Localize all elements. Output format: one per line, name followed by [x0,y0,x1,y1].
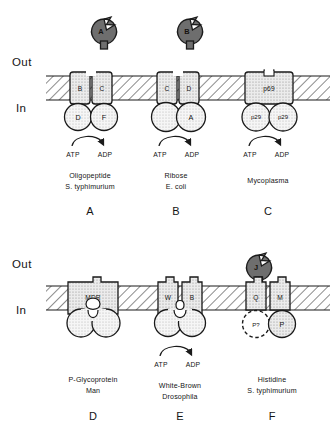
abc-transporter-figure: Out In A B C D F [0,0,336,438]
caption-C-line1: Mycoplasma [247,177,288,185]
panel-label-A: A [86,205,94,217]
label-out-bottom: Out [12,258,32,270]
membrane-subunit-label-B2: D [187,85,192,92]
cytoplasmic-subunit-label-F2: P [280,320,285,329]
cytoplasmic-subunit-label-C1: p29 [251,113,262,120]
binding-protein-label-B: B [184,27,189,36]
caption-B-line1: Ribose [165,172,188,180]
panel-label-F: F [269,410,276,422]
caption-E-line2: Drosophila [162,393,197,401]
membrane-subunit-label-A2: C [100,85,105,92]
panel-label-D: D [89,410,97,422]
binding-protein-label-F: J [254,263,258,272]
atp-label-B: ATP [153,151,167,158]
panel-label-E: E [176,410,183,422]
panel-label-C: C [264,205,272,217]
caption-A-line1: Oligopeptide [69,172,111,180]
caption-E-line1: White-Brown [159,382,201,390]
caption-D-line1: P-Glycoprotein [68,376,117,384]
caption-F-line2: S. typhimurium [247,387,296,395]
adp-label-A: ADP [98,151,113,158]
caption-B-line2: E. coli [166,183,187,191]
membrane-subunit-label-F1: Q [253,294,258,302]
membrane-subunit-label-C1: p69 [263,85,275,93]
cytoplasmic-subunit-label-F1: P? [252,321,260,328]
binding-protein-label-A: A [98,27,104,36]
caption-A-line2: S. typhimurium [65,183,114,191]
membrane-subunit-label-F2: M [277,294,283,301]
cytoplasmic-subunit-label-A2: F [102,113,107,122]
membrane-subunit-label-E1: W [165,294,172,301]
adp-label-C: ADP [275,151,290,158]
cytoplasmic-subunit-label-C2: p29 [278,113,289,120]
caption-F-line1: Histidine [258,376,287,384]
panel-label-B: B [172,205,179,217]
cytoplasmic-subunit-label-B2: A [189,113,194,122]
caption-D-line2: Man [86,387,100,395]
atp-label-E: ATP [154,361,168,368]
label-in-top: In [16,102,26,114]
membrane-subunit-label-B1: C [165,85,170,92]
label-out-top: Out [12,56,32,68]
membrane-subunit-label-A1: B [78,85,83,92]
atp-label-C: ATP [243,151,257,158]
cytoplasmic-subunit-label-A1: D [75,113,80,122]
atp-label-A: ATP [66,151,80,158]
adp-label-E: ADP [186,361,201,368]
adp-label-B: ADP [185,151,200,158]
label-in-bottom: In [16,304,26,316]
membrane-subunit-label-E2: B [190,294,195,301]
